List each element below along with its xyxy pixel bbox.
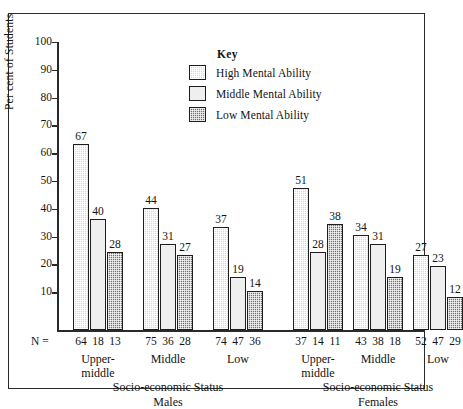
panel-label-females: Socio-economic Status Females — [323, 380, 433, 409]
bar-value-label: 28 — [109, 238, 121, 251]
x-group-label-line1: Upper- — [81, 352, 115, 366]
sample-size-value: 43 — [355, 335, 367, 347]
bar-low-group-3: 38 — [327, 224, 343, 330]
sample-size-value: 11 — [329, 335, 340, 347]
bar-low-group-1: 27 — [177, 255, 193, 330]
x-group-label-line1: Middle — [151, 352, 186, 366]
x-group-label-5: Low — [427, 352, 449, 366]
bar-value-label: 67 — [75, 130, 87, 143]
bar-high-group-4: 34 — [353, 235, 369, 330]
y-tick-label: 70 — [41, 117, 53, 131]
sample-size-value: 29 — [449, 335, 461, 347]
bar-value-label: 44 — [145, 194, 157, 207]
sample-size-value: 47 — [432, 335, 444, 347]
x-group-label-line1: Upper- — [301, 352, 335, 366]
bar-value-label: 23 — [432, 252, 444, 265]
y-axis-label: Per cent of Students — [3, 14, 15, 110]
x-group-label-4: Middle — [361, 352, 396, 366]
bar-high-group-2: 37 — [213, 227, 229, 330]
x-group-label-0: Upper-middle — [81, 352, 115, 380]
bar-value-label: 34 — [355, 221, 367, 234]
sample-size-value: 18 — [92, 335, 104, 347]
y-tick-label: 90 — [41, 62, 53, 76]
x-axis-line — [57, 330, 425, 332]
bar-value-label: 51 — [295, 174, 307, 187]
sample-size-value: 37 — [295, 335, 307, 347]
y-tick-mark — [52, 42, 58, 43]
y-tick-mark — [52, 209, 58, 210]
y-tick-label: 30 — [41, 229, 53, 243]
sample-size-value: 47 — [232, 335, 244, 347]
panel-label-males: Socio-economic Status Males — [113, 380, 223, 409]
y-tick-mark — [52, 153, 58, 154]
y-tick-label: 10 — [41, 284, 53, 298]
sample-size-value: 74 — [215, 335, 227, 347]
y-tick-mark — [52, 237, 58, 238]
bar-middle-group-3: 28 — [310, 252, 326, 330]
chart-frame: Per cent of Students Key High Mental Abi… — [8, 13, 425, 389]
bar-middle-group-4: 31 — [370, 244, 386, 330]
sample-size-value: 28 — [179, 335, 191, 347]
y-tick-label: 50 — [41, 173, 53, 187]
bar-value-label: 40 — [92, 205, 104, 218]
bar-value-label: 19 — [389, 263, 401, 276]
x-group-label-line1: Low — [227, 352, 249, 366]
y-tick-mark — [52, 292, 58, 293]
bar-value-label: 12 — [449, 283, 461, 296]
y-axis-line — [57, 42, 59, 330]
y-tick-mark — [52, 264, 58, 265]
sample-size-value: 52 — [415, 335, 427, 347]
bar-value-label: 31 — [372, 230, 384, 243]
bar-middle-group-5: 23 — [430, 266, 446, 330]
panel-label-males-status: Socio-economic Status — [113, 380, 223, 394]
bar-high-group-5: 27 — [413, 255, 429, 330]
bar-value-label: 27 — [415, 241, 427, 254]
y-tick-label: 100 — [35, 34, 52, 48]
x-group-label-3: Upper-middle — [301, 352, 335, 380]
bar-value-label: 19 — [232, 263, 244, 276]
bar-value-label: 37 — [215, 213, 227, 226]
y-tick-mark — [52, 125, 58, 126]
y-tick-mark — [52, 70, 58, 71]
bar-high-group-0: 67 — [73, 144, 89, 330]
panel-label-males-sub: Males — [113, 395, 223, 409]
y-tick-label: 60 — [41, 145, 53, 159]
sample-size-value: 13 — [109, 335, 121, 347]
bar-high-group-3: 51 — [293, 188, 309, 330]
bar-middle-group-0: 40 — [90, 219, 106, 330]
bar-middle-group-2: 19 — [230, 277, 246, 330]
panel-label-females-status: Socio-economic Status — [323, 380, 433, 394]
bar-value-label: 38 — [329, 210, 341, 223]
sample-size-value: 75 — [145, 335, 157, 347]
plot-area: 102030405060708090100 674028443127371914… — [57, 42, 425, 330]
panel-label-females-sub: Females — [323, 395, 433, 409]
x-group-label-2: Low — [227, 352, 249, 366]
bar-high-group-1: 44 — [143, 208, 159, 330]
sample-size-value: 38 — [372, 335, 384, 347]
sample-size-value: 64 — [75, 335, 87, 347]
bar-low-group-0: 28 — [107, 252, 123, 330]
bar-low-group-2: 14 — [247, 291, 263, 330]
sample-size-value: 36 — [162, 335, 174, 347]
x-group-label-line1: Low — [427, 352, 449, 366]
bar-middle-group-1: 31 — [160, 244, 176, 330]
bar-value-label: 31 — [162, 230, 174, 243]
bar-value-label: 14 — [249, 277, 261, 290]
sample-size-value: 36 — [249, 335, 261, 347]
y-tick-label: 40 — [41, 201, 53, 215]
x-group-label-line2: middle — [301, 366, 335, 380]
x-group-label-1: Middle — [151, 352, 186, 366]
bar-value-label: 27 — [179, 241, 191, 254]
x-group-label-line2: middle — [81, 366, 115, 380]
bar-value-label: 28 — [312, 238, 324, 251]
x-group-label-line1: Middle — [361, 352, 396, 366]
bar-low-group-5: 12 — [447, 297, 463, 330]
y-tick-mark — [52, 181, 58, 182]
sample-size-value: 14 — [312, 335, 324, 347]
y-tick-label: 80 — [41, 90, 53, 104]
y-tick-label: 20 — [41, 256, 53, 270]
sample-size-prefix: N = — [31, 335, 49, 347]
sample-size-value: 18 — [389, 335, 401, 347]
y-tick-mark — [52, 98, 58, 99]
